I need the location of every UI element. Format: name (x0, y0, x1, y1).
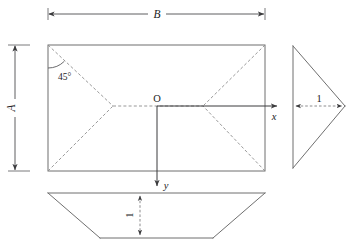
width-dimension-label: B (153, 8, 160, 20)
height-dimension-group: A (5, 45, 30, 171)
bottom-front-view: 1 (48, 193, 265, 238)
y-axis-label: y (163, 180, 169, 191)
technical-drawing-figure: B A 45° O x y (0, 0, 350, 251)
angle-label: 45° (58, 72, 72, 82)
front-view-right-slope (213, 193, 265, 238)
hip-line-bottom-right (203, 106, 265, 171)
front-view-left-slope (48, 193, 100, 238)
x-axis-label: x (271, 111, 277, 122)
origin-label: O (153, 93, 161, 104)
top-plan-view: 45° O x y (48, 45, 277, 191)
orthographic-projection-svg: B A 45° O x y (0, 0, 350, 251)
angle-arc (48, 61, 64, 68)
side-view-dimension-label: 1 (316, 93, 321, 104)
right-side-view: 1 (293, 46, 345, 168)
height-dimension-label: A (5, 104, 17, 113)
side-view-lower-slope (293, 106, 345, 168)
hip-line-bottom-left (48, 106, 113, 171)
width-dimension-group: B (48, 5, 265, 22)
hip-line-top-right (203, 45, 265, 106)
front-view-dimension-label: 1 (124, 212, 135, 217)
